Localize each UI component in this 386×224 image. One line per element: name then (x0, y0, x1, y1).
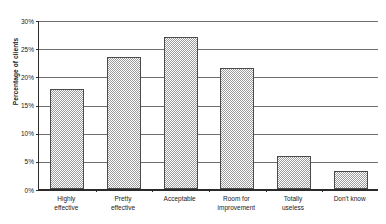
bar[interactable] (277, 156, 311, 189)
y-tick-label: 30% (10, 18, 34, 25)
y-tickmark (36, 190, 39, 191)
x-tick-label: Prettyeffective (95, 194, 152, 212)
bar[interactable] (107, 57, 141, 189)
y-axis-tick-labels: 30%25%20%15%10%5%0% (10, 21, 34, 190)
bar-slot (152, 21, 209, 189)
y-tick-label: 0% (10, 187, 34, 194)
x-tick-label-line: Highly (38, 194, 95, 203)
x-tick-label: Highlyeffective (38, 194, 95, 212)
bar-slot (322, 21, 379, 189)
x-tick-label-line: Acceptable (151, 194, 208, 203)
x-category-separator (96, 189, 97, 192)
y-tick-label: 5% (10, 158, 34, 165)
x-tick-label: Totallyuseless (265, 194, 322, 212)
y-tick-label: 25% (10, 46, 34, 53)
y-tick-label: 10% (10, 130, 34, 137)
x-tick-label-line: useless (265, 203, 322, 212)
bar-slot (209, 21, 266, 189)
x-category-separator (266, 189, 267, 192)
x-category-separator (209, 189, 210, 192)
x-tick-label: Acceptable (151, 194, 208, 203)
x-tick-label-line: Pretty (95, 194, 152, 203)
bar[interactable] (220, 68, 254, 189)
x-tick-label: Room forimprovement (208, 194, 265, 212)
bar[interactable] (164, 37, 198, 189)
y-tick-label: 15% (10, 102, 34, 109)
x-tick-label-line: Room for (208, 194, 265, 203)
bar[interactable] (334, 171, 368, 189)
plot-area (38, 21, 378, 190)
bar[interactable] (50, 89, 84, 189)
x-tick-label: Don't know (321, 194, 378, 203)
x-tick-label-line: effective (38, 203, 95, 212)
bar-slot (39, 21, 96, 189)
bar-chart: Percentage of clients 30%25%20%15%10%5%0… (0, 0, 386, 224)
bar-slot (96, 21, 153, 189)
y-tick-label: 20% (10, 74, 34, 81)
x-tick-label-line: improvement (208, 203, 265, 212)
x-tick-label-line: Don't know (321, 194, 378, 203)
x-category-separator (152, 189, 153, 192)
bar-series (39, 21, 378, 189)
x-tick-label-line: Totally (265, 194, 322, 203)
chart-title (0, 0, 386, 4)
x-category-separator (322, 189, 323, 192)
bar-slot (266, 21, 323, 189)
x-axis-tick-labels: HighlyeffectivePrettyeffectiveAcceptable… (38, 194, 378, 222)
x-tick-label-line: effective (95, 203, 152, 212)
